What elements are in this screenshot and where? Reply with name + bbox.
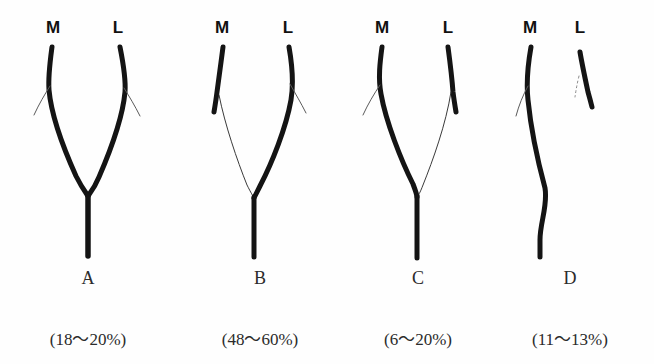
figure-root: M L A (18～20%) M L B (48～60%) bbox=[0, 0, 654, 364]
lateral-label-c: L bbox=[443, 19, 453, 36]
medial-label-c: M bbox=[375, 19, 389, 36]
type-letter-a: A bbox=[82, 268, 95, 289]
medial-branch-a bbox=[49, 47, 88, 196]
medial-side-whisker-c bbox=[363, 85, 380, 115]
prevalence-b: (48～60%) bbox=[222, 325, 298, 350]
medial-label-b: M bbox=[215, 19, 229, 36]
lateral-label-b: L bbox=[283, 19, 293, 36]
panel-type-d: M L D (11～13%) bbox=[490, 0, 654, 364]
lateral-label-a: L bbox=[113, 19, 123, 36]
lateral-label-d: L bbox=[575, 19, 585, 36]
panel-type-a: M L A (18～20%) bbox=[0, 0, 175, 364]
type-letter-c: C bbox=[412, 268, 424, 289]
medial-thin-continuation-b bbox=[219, 95, 254, 198]
medial-label-d: M bbox=[523, 19, 537, 36]
type-letter-d: D bbox=[564, 268, 577, 289]
prevalence-a: (18～20%) bbox=[50, 325, 126, 350]
diagram-type-c bbox=[325, 0, 490, 300]
diagram-type-b bbox=[175, 0, 325, 300]
panel-type-b: M L B (48～60%) bbox=[175, 0, 325, 364]
prevalence-c: (6～20%) bbox=[384, 325, 452, 350]
diagram-type-d bbox=[490, 0, 654, 300]
medial-branch-c bbox=[379, 47, 417, 197]
lateral-side-whisker-a bbox=[124, 88, 140, 116]
medial-branch-trunk-d bbox=[527, 47, 545, 257]
medial-label-a: M bbox=[46, 19, 60, 36]
lateral-dotted-hint-d bbox=[575, 76, 579, 97]
type-letter-b: B bbox=[254, 268, 266, 289]
panel-type-c: M L C (6～20%) bbox=[325, 0, 490, 364]
medial-side-whisker-a bbox=[34, 86, 50, 115]
diagram-type-a bbox=[0, 0, 175, 300]
prevalence-d: (11～13%) bbox=[532, 325, 608, 350]
lateral-stump-d bbox=[580, 52, 592, 107]
lateral-branch-b bbox=[254, 47, 292, 198]
lateral-thin-continuation-c bbox=[417, 92, 451, 197]
medial-branch-b bbox=[214, 47, 223, 112]
lateral-branch-a bbox=[88, 47, 125, 196]
